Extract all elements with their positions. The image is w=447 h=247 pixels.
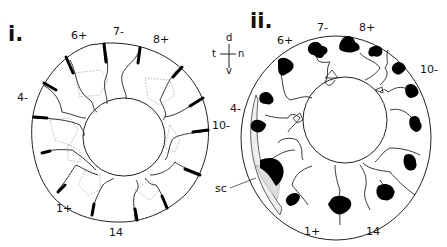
compass-d: d xyxy=(226,33,232,43)
label-sc: sc xyxy=(215,183,227,194)
compass-t: t xyxy=(212,49,216,59)
label-14: 14 xyxy=(109,227,123,238)
label-10minus: 10- xyxy=(420,64,438,75)
orientation-compass-icon xyxy=(220,0,447,247)
label-14: 14 xyxy=(366,226,380,237)
compass-v: v xyxy=(226,66,232,76)
label-4minus: 4- xyxy=(230,103,241,114)
label-6plus: 6+ xyxy=(71,30,87,41)
label-8plus: 8+ xyxy=(359,22,375,33)
ring-diagram-i xyxy=(0,0,220,247)
panel-i: i. xyxy=(0,0,220,247)
label-8plus: 8+ xyxy=(153,34,169,45)
panel-ii: ii. xyxy=(220,0,447,247)
label-7minus: 7- xyxy=(113,26,124,37)
label-4minus: 4- xyxy=(17,92,28,103)
label-7minus: 7- xyxy=(317,22,328,33)
label-1plus: 1+ xyxy=(304,226,320,237)
compass-n: n xyxy=(238,49,244,59)
label-1plus: 1+ xyxy=(56,203,72,214)
label-6plus: 6+ xyxy=(277,35,293,46)
